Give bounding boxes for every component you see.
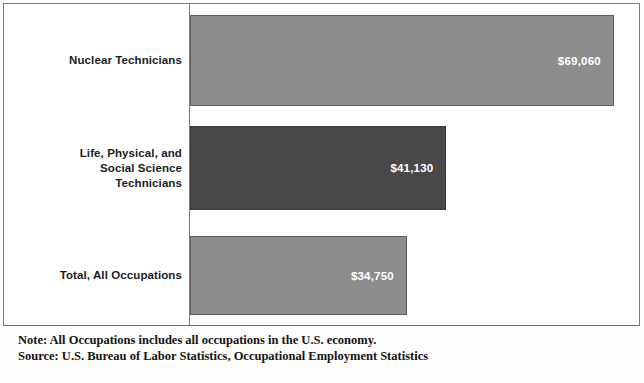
chart-footnotes: Note: All Occupations includes all occup…: [18, 333, 618, 364]
bar-nuclear-technicians[interactable]: $69,060: [190, 15, 614, 106]
category-label-line: Technicians: [12, 176, 182, 191]
category-label-line: Life, Physical, and: [12, 146, 182, 161]
bar-value-label: $41,130: [390, 162, 445, 174]
chart-plot-frame: Nuclear Technicians $69,060 Life, Physic…: [3, 3, 640, 326]
category-label-line: Social Science: [12, 161, 182, 176]
category-label-nuclear-technicians: Nuclear Technicians: [12, 53, 182, 68]
category-label-line: Total, All Occupations: [12, 268, 182, 283]
category-label-line: Nuclear Technicians: [12, 53, 182, 68]
bar-total-all-occupations[interactable]: $34,750: [190, 236, 407, 315]
chart-row: Total, All Occupations $34,750: [4, 233, 639, 318]
bar-track: $41,130: [190, 123, 639, 213]
bar-value-label: $34,750: [351, 270, 406, 282]
footnote-note: Note: All Occupations includes all occup…: [18, 333, 618, 349]
bar-track: $69,060: [190, 12, 639, 109]
chart-row: Life, Physical, and Social Science Techn…: [4, 123, 639, 213]
bar-value-label: $69,060: [558, 55, 613, 67]
bar-track: $34,750: [190, 233, 639, 318]
bar-life-physical-social-science-technicians[interactable]: $41,130: [190, 126, 446, 210]
footnote-source: Source: U.S. Bureau of Labor Statistics,…: [18, 349, 618, 365]
category-label-life-physical-social-science-technicians: Life, Physical, and Social Science Techn…: [12, 146, 182, 191]
chart-screenshot: Nuclear Technicians $69,060 Life, Physic…: [0, 0, 644, 383]
category-label-total-all-occupations: Total, All Occupations: [12, 268, 182, 283]
chart-row: Nuclear Technicians $69,060: [4, 12, 639, 109]
